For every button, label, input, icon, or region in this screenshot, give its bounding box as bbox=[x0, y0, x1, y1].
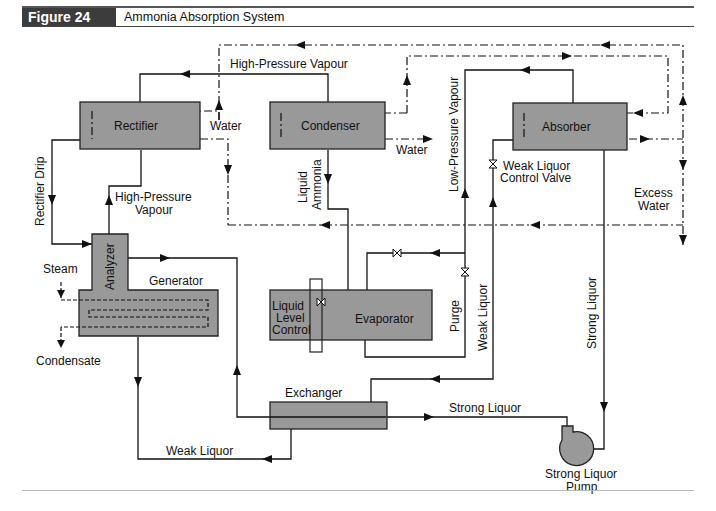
purge-label: Purge bbox=[448, 300, 462, 332]
weak-liquor-bottom-label: Weak Liquor bbox=[166, 444, 233, 458]
condensate-label: Condensate bbox=[36, 354, 101, 368]
liquid-ammonia-line2-label: Ammonia bbox=[310, 159, 324, 210]
hp-vapour-line1-label: High-Pressure bbox=[115, 190, 192, 204]
water-condenser-label: Water bbox=[396, 143, 428, 157]
strong-liquor-vertical-label: Strong Liquor bbox=[585, 277, 599, 349]
purge-valve-icon bbox=[461, 268, 469, 276]
condenser-label: Condenser bbox=[301, 119, 360, 133]
analyzer-label: Analyzer bbox=[103, 243, 117, 290]
steam-label: Steam bbox=[43, 262, 78, 276]
excess-water-line2-label: Water bbox=[638, 199, 670, 213]
hp-vapour-line2-label: Vapour bbox=[135, 203, 173, 217]
evaporator-label: Evaporator bbox=[355, 312, 414, 326]
rectifier-label: Rectifier bbox=[114, 119, 158, 133]
weak-liquor-valve-icon bbox=[489, 160, 497, 168]
exchanger-label: Exchanger bbox=[285, 386, 342, 400]
strong-liquor-pump bbox=[560, 426, 594, 466]
weak-liquor-vertical-label: Weak Liquor bbox=[476, 284, 490, 351]
absorber-label: Absorber bbox=[542, 120, 591, 134]
water-rectifier-label: Water bbox=[210, 119, 242, 133]
liquid-level-line3-label: Control bbox=[272, 323, 311, 337]
evaporator-line-valve-icon bbox=[393, 249, 401, 257]
rectifier-drip-label: Rectifier Drip bbox=[33, 156, 47, 226]
liquid-ammonia-line1-label: Liquid bbox=[296, 171, 310, 203]
valves bbox=[317, 160, 497, 306]
pump-label-line2: Pump bbox=[566, 480, 598, 494]
generator-label: Generator bbox=[149, 274, 203, 288]
low-pressure-vapour-label: Low-Pressure Vapour bbox=[447, 77, 461, 192]
pump-label-line1: Strong Liquor bbox=[545, 467, 617, 481]
hp-vapour-top-label: High-Pressure Vapour bbox=[230, 57, 348, 71]
exchanger-unit bbox=[270, 402, 387, 429]
strong-liquor-horizontal-label: Strong Liquor bbox=[449, 401, 521, 415]
ammonia-absorption-diagram: Rectifier Condenser Absorber Analyzer Ge… bbox=[0, 0, 716, 511]
footer-rule bbox=[22, 490, 694, 491]
excess-water-line1-label: Excess bbox=[634, 186, 673, 200]
weak-liquor-valve-line2-label: Control Valve bbox=[500, 171, 571, 185]
